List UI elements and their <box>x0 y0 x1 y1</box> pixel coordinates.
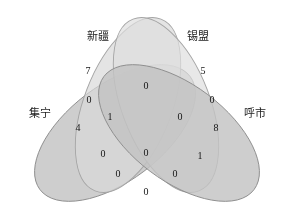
region-count-xinjiang-xilingol: 0 <box>144 80 149 91</box>
region-count-jining-xinjiang-hohhot: 0 <box>116 168 121 179</box>
region-count-all-four: 0 <box>144 147 149 158</box>
region-count-xinjiang-xilingol-hohhot: 0 <box>178 111 183 122</box>
set-label-hohhot: 呼市 <box>244 104 267 120</box>
region-count-jining-xilingol: 0 <box>101 148 106 159</box>
set-label-xinjiang: 新疆 <box>87 27 110 43</box>
region-count-xilingol-hohhot: 0 <box>210 94 215 105</box>
region-count-jining-xinjiang-xilingol: 1 <box>108 111 113 122</box>
region-count-jining-hohhot: 0 <box>144 186 149 197</box>
set-label-xilingol: 锡盟 <box>187 27 210 43</box>
region-count-jining-xilingol-hohhot: 0 <box>173 168 178 179</box>
region-count-xinjiang-only: 7 <box>86 65 91 76</box>
region-count-jining-xinjiang: 0 <box>87 94 92 105</box>
region-count-xinjiang-hohhot: 1 <box>198 150 203 161</box>
venn-diagram: 集宁 新疆 锡盟 呼市 7 5 0 0 0 4 8 1 0 0 1 0 0 0 … <box>0 0 293 221</box>
region-count-xilingol-only: 5 <box>201 65 206 76</box>
region-count-jining-only: 4 <box>76 122 81 133</box>
set-label-jining: 集宁 <box>29 104 52 120</box>
region-count-hohhot-only: 8 <box>214 122 219 133</box>
